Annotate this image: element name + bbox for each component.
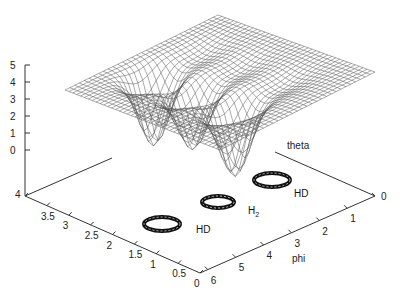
z-tick-label: 3 — [10, 94, 16, 105]
z-tick-label: 0 — [10, 145, 16, 156]
z-axis: 543210 — [10, 60, 30, 196]
phi-tick-label: 6 — [211, 275, 217, 286]
theta-tick-label: 1.5 — [128, 249, 142, 260]
annotation-h2: H2 — [248, 205, 259, 218]
theta-axis-title: theta — [287, 140, 310, 151]
base-axes: 43.532.521.510.50 6543210 — [15, 152, 387, 289]
z-tick-label: 2 — [10, 111, 16, 122]
phi-tick-label: 2 — [322, 226, 328, 237]
phi-tick-label: 1 — [350, 213, 356, 224]
theta-tick-label: 1 — [150, 259, 156, 270]
theta-tick-label: 3 — [63, 220, 69, 231]
wireframe-surface — [65, 15, 375, 177]
phi-tick-label: 3 — [294, 238, 300, 249]
theta-tick-label: 2 — [107, 240, 113, 251]
z-tick-label: 5 — [10, 60, 16, 71]
theta-tick-label: 2.5 — [85, 230, 99, 241]
theta-tick-label: 4 — [15, 189, 21, 200]
ring-h2 — [202, 196, 234, 208]
back-left-edge — [25, 158, 112, 196]
ring-hd-left — [144, 217, 180, 231]
z-tick-label: 4 — [10, 77, 16, 88]
phi-tick-label: 0 — [381, 191, 387, 202]
ring-markers — [144, 173, 290, 231]
z-tick-label: 1 — [10, 128, 16, 139]
back-right-edge — [275, 152, 375, 196]
ring-hd-right — [254, 173, 290, 187]
theta-tick-label: 0 — [194, 278, 200, 289]
annotation-hd-left: HD — [196, 224, 210, 235]
annotation-hd-right: HD — [294, 188, 308, 199]
phi-tick-label: 5 — [239, 262, 245, 273]
surface-plot: 543210 43.532.521.510.50 6543210 HD H2 H… — [0, 0, 400, 291]
theta-tick-label: 0.5 — [172, 268, 186, 279]
theta-tick-label: 3.5 — [41, 211, 55, 222]
phi-axis-title: phi — [292, 253, 305, 264]
phi-tick-label: 4 — [267, 250, 273, 261]
